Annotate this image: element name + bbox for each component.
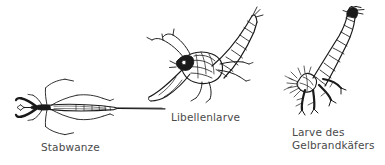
caption-libellenlarve: Libellenlarve (171, 111, 240, 124)
water-stick-insect-drawing (14, 78, 166, 136)
insect-illustration-board: Stabwanze Libellenlarve Larve des Gelbra… (0, 0, 385, 165)
figure-stabwanze (14, 78, 166, 136)
caption-gelbrandkaefer-larve: Larve des Gelbrandkäfers (292, 126, 375, 152)
figure-libellenlarve (146, 4, 270, 104)
caption-stabwanze: Stabwanze (41, 141, 100, 154)
dragonfly-larva-drawing (146, 4, 270, 104)
figure-gelbrandkaefer-larve (283, 6, 379, 118)
diving-beetle-larva-drawing (283, 6, 379, 118)
